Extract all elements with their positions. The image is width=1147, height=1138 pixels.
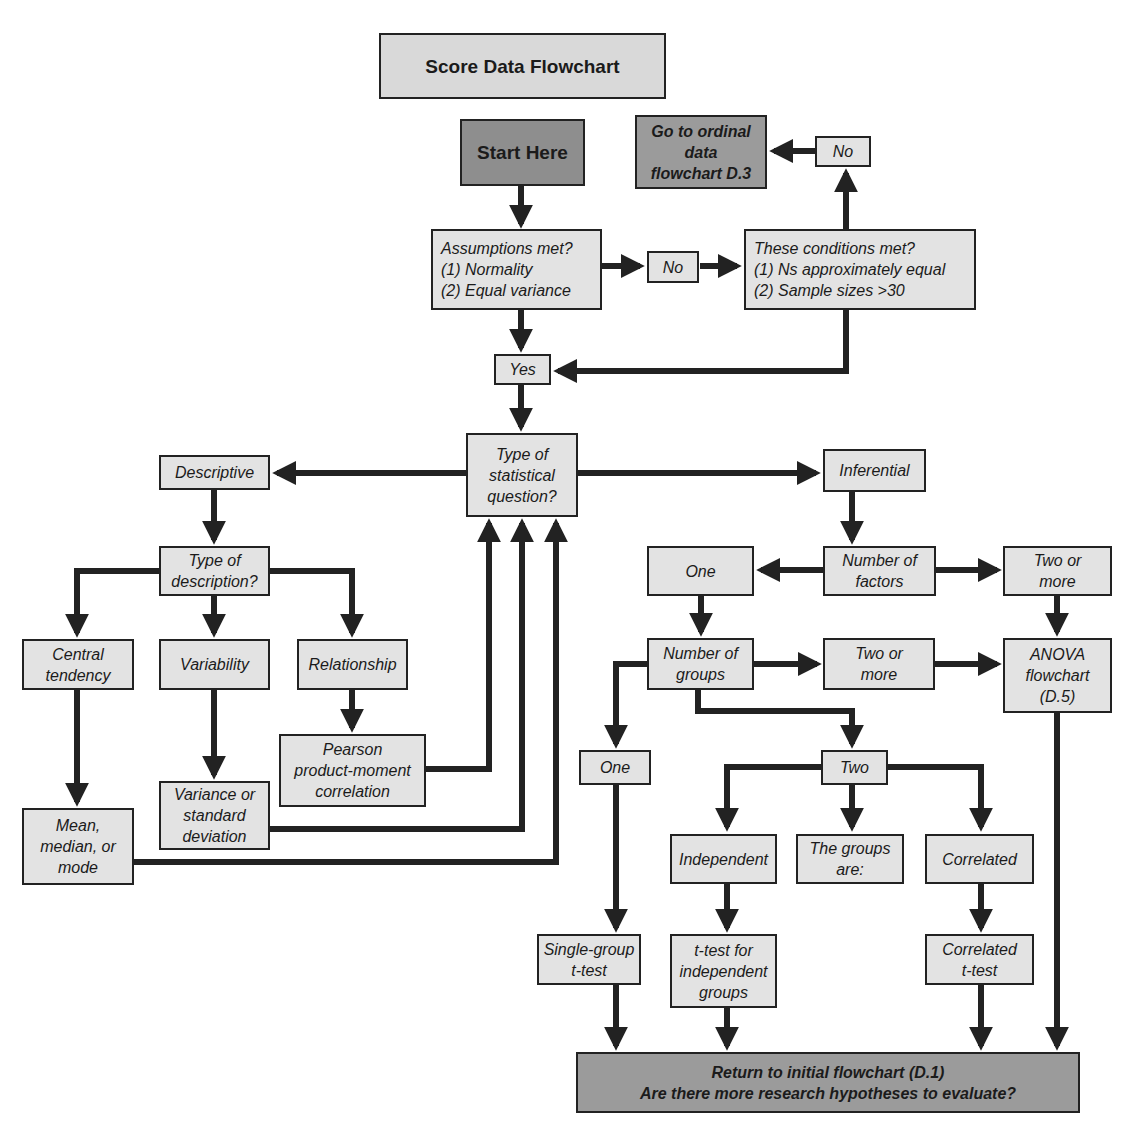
relationship-box: Relationship xyxy=(297,639,408,690)
independent-t-test-box: t-test for independent groups xyxy=(670,934,777,1008)
description-type-box: Type of description? xyxy=(159,546,270,596)
descriptive-box: Descriptive xyxy=(159,455,270,490)
statistical-question-box: Type of statistical question? xyxy=(466,433,578,517)
no-top-box: No xyxy=(815,136,871,167)
central-tendency-box: Central tendency xyxy=(22,639,134,690)
return-initial-flowchart-box: Return to initial flowchart (D.1) Are th… xyxy=(576,1052,1080,1113)
assumptions-box: Assumptions met? (1) Normality (2) Equal… xyxy=(431,229,602,310)
independent-box: Independent xyxy=(670,834,777,884)
factors-two-or-more-box: Two or more xyxy=(1003,546,1112,596)
groups-two-box: Two xyxy=(821,750,888,785)
single-group-t-test-box: Single-group t-test xyxy=(537,934,641,985)
number-of-groups-box: Number of groups xyxy=(647,638,754,690)
groups-two-or-more-box: Two or more xyxy=(823,638,935,690)
variability-box: Variability xyxy=(159,639,270,690)
groups-one-box: One xyxy=(579,750,651,785)
ordinal-flowchart-box: Go to ordinal data flowchart D.3 xyxy=(635,115,767,189)
no-mid-box: No xyxy=(647,251,699,283)
flowchart-title: Score Data Flowchart xyxy=(379,33,666,99)
factors-one-box: One xyxy=(647,546,754,596)
anova-flowchart-box: ANOVA flowchart (D.5) xyxy=(1003,638,1112,713)
mean-median-mode-box: Mean, median, or mode xyxy=(22,808,134,885)
yes-box: Yes xyxy=(494,354,551,385)
inferential-box: Inferential xyxy=(823,449,926,492)
variance-sd-box: Variance or standard deviation xyxy=(159,781,270,850)
correlated-box: Correlated xyxy=(925,834,1034,884)
number-of-factors-box: Number of factors xyxy=(823,546,936,596)
pearson-correlation-box: Pearson product-moment correlation xyxy=(279,734,426,807)
groups-are-box: The groups are: xyxy=(796,834,904,884)
correlated-t-test-box: Correlated t-test xyxy=(925,934,1034,985)
conditions-box: These conditions met? (1) Ns approximate… xyxy=(744,229,976,310)
start-here-box: Start Here xyxy=(460,119,585,186)
